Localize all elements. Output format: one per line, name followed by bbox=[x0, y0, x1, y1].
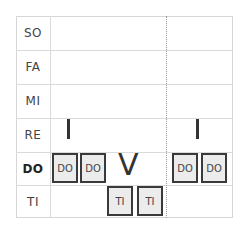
chord-v-symbol: V bbox=[118, 150, 139, 180]
measure-divider bbox=[166, 16, 167, 218]
row-label-do: DO bbox=[16, 152, 50, 186]
note-block: DO bbox=[52, 153, 78, 183]
row-label-so: SO bbox=[16, 16, 50, 50]
note-block: DO bbox=[172, 153, 198, 183]
chord-i-symbol bbox=[67, 119, 70, 139]
row-label-re: RE bbox=[16, 118, 50, 152]
note-block: TI bbox=[107, 186, 133, 216]
row-label-mi: MI bbox=[16, 84, 50, 118]
note-block: DO bbox=[80, 153, 106, 183]
note-block: DO bbox=[201, 153, 227, 183]
chord-i-symbol bbox=[196, 119, 199, 139]
label-column-divider bbox=[50, 16, 51, 218]
row-label-ti: TI bbox=[16, 185, 50, 219]
note-block: TI bbox=[137, 186, 163, 216]
row-label-fa: FA bbox=[16, 50, 50, 84]
